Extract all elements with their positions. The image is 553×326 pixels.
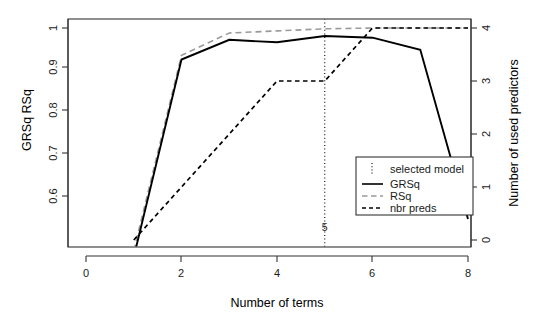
left-tick-label: 0.6	[47, 188, 59, 203]
x-tick-label: 6	[369, 267, 375, 279]
x-tick-label: 2	[178, 267, 184, 279]
right-tick-label: 4	[480, 25, 492, 31]
right-tick-label: 3	[480, 78, 492, 84]
left-tick-label: 0.9	[47, 59, 59, 74]
x-axis-title: Number of terms	[230, 296, 323, 310]
chart-svg: 1 0.9 0.8 0.7 0.6 GRSq RSq 4 3 2 1 0 Num…	[0, 0, 553, 326]
legend-label-grsq: GRSq	[390, 178, 420, 190]
series-line-grsq	[134, 36, 468, 257]
left-axis: 1 0.9 0.8 0.7 0.6 GRSq RSq	[20, 19, 68, 247]
y-left-axis-title: GRSq RSq	[20, 89, 34, 151]
legend-label-nbr-preds: nbr preds	[390, 202, 437, 214]
selected-model-vline-label: 5	[322, 221, 328, 233]
legend-label-rsq: RSq	[390, 190, 411, 202]
legend[interactable]: selected model GRSq RSq nbr preds	[356, 157, 473, 215]
x-axis: 0 2 4 6 8 Number of terms	[83, 256, 471, 310]
series-layer	[134, 19, 468, 257]
left-tick-label: 1	[47, 25, 59, 31]
left-tick-label: 0.7	[47, 145, 59, 160]
y-right-axis-title: Number of used predictors	[507, 59, 521, 206]
x-tick-label: 0	[83, 267, 89, 279]
plot-canvas: 1 0.9 0.8 0.7 0.6 GRSq RSq 4 3 2 1 0 Num…	[0, 0, 553, 326]
right-tick-label: 0	[480, 237, 492, 243]
series-line-rsq	[134, 28, 468, 251]
right-tick-label: 1	[480, 184, 492, 190]
left-tick-label: 0.8	[47, 102, 59, 117]
x-tick-label: 4	[274, 267, 280, 279]
right-axis: 4 3 2 1 0 Number of used predictors	[471, 19, 521, 247]
right-tick-label: 2	[480, 131, 492, 137]
legend-label-selected-model: selected model	[390, 163, 464, 175]
x-tick-label: 8	[465, 267, 471, 279]
